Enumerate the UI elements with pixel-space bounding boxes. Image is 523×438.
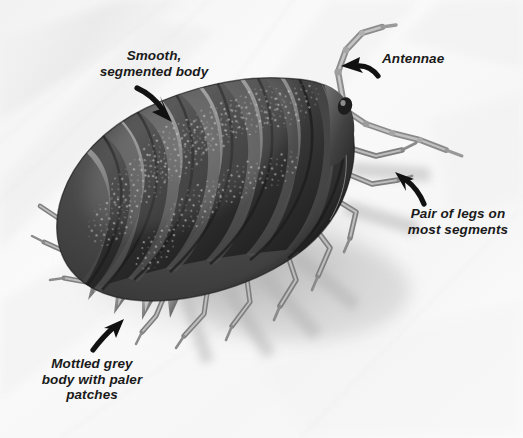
callout-mottled-grey-body: Mottled grey body with paler patches (18, 356, 166, 403)
woodlouse-figure: Smooth, segmented body Antennae Pair of … (0, 0, 523, 438)
callout-pair-of-legs: Pair of legs on most segments (396, 206, 520, 237)
callout-smooth-segmented-body: Smooth, segmented body (86, 48, 222, 79)
callout-antennae: Antennae (382, 51, 492, 67)
